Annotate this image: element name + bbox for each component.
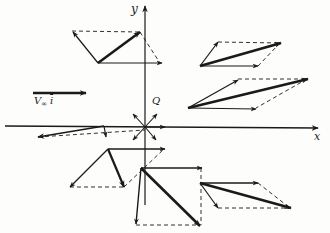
freestream-label-sub: ∞ — [41, 100, 47, 108]
parallelogram-left-axis — [38, 126, 145, 137]
diagram-svg — [0, 0, 330, 233]
parallelogram-top-right-lower — [188, 79, 308, 109]
parallelogram-top-right-upper — [200, 42, 281, 66]
parallelogram-bottom-middle — [136, 168, 202, 226]
freestream-label-unit: i — [50, 95, 53, 106]
diagram-canvas: y x Q V∞i — [0, 0, 330, 233]
freestream-label: V∞i — [34, 96, 53, 108]
x-axis-label: x — [314, 131, 320, 142]
y-axis-label: y — [131, 3, 138, 15]
parallelogram-bottom-right — [200, 183, 291, 208]
source-label: Q — [152, 96, 160, 106]
parallelogram-top-left — [72, 31, 162, 63]
